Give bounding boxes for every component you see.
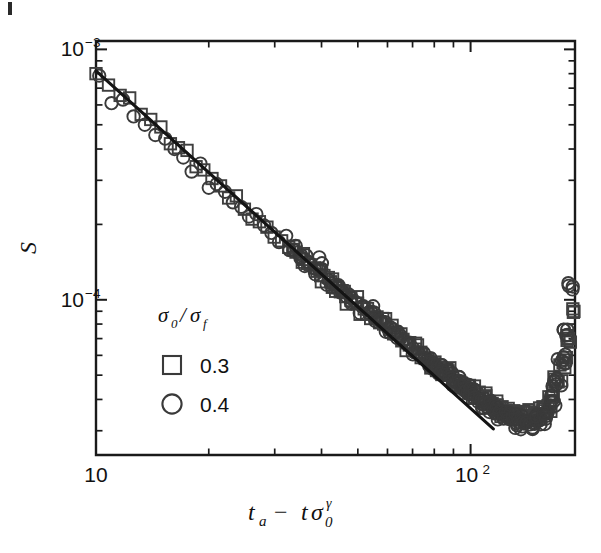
- legend-title-part: σ: [158, 303, 170, 327]
- fit-line: [96, 71, 493, 429]
- y-tick-label-1e-3: 10: [61, 37, 84, 60]
- legend-title-part: σ: [190, 303, 202, 327]
- power-law-fit-line: [96, 71, 493, 429]
- x-tick-label-10: 10: [84, 463, 107, 486]
- y-tick-exponent-1e-3: −3: [85, 35, 100, 50]
- axis-ticks: [96, 41, 575, 455]
- marker-circle: [127, 110, 139, 122]
- x-axis-label-part: −: [274, 499, 288, 525]
- y-axis-label: S: [15, 242, 41, 254]
- legend-marker-circle: [162, 394, 181, 413]
- legend-title-part: 0: [171, 316, 178, 331]
- y-tick-exponent-1e-4: −4: [85, 286, 101, 301]
- legend: σ0/σf0.30.4: [158, 303, 230, 416]
- x-axis-label-part: a: [259, 513, 267, 529]
- figure-panel: 10−310−410102Sta−tσ0γ σ0/σf0.30.4: [0, 0, 601, 553]
- x-axis-label-part: γ: [326, 496, 332, 511]
- legend-title-part: f: [203, 316, 209, 331]
- legend-entry-label: 0.3: [200, 354, 229, 377]
- legend-marker-square: [163, 356, 181, 374]
- plot-border: [96, 41, 575, 455]
- x-axis-label-part: t: [248, 499, 256, 525]
- x-axis-label-part: σ: [311, 499, 324, 525]
- legend-title-part: /: [179, 303, 188, 327]
- x-tick-label-100: 10: [455, 463, 478, 486]
- x-axis-label-part: 0: [325, 514, 333, 530]
- y-tick-label-1e-4: 10: [61, 288, 84, 311]
- legend-entry-label: 0.4: [200, 393, 230, 416]
- x-tick-exponent-100: 2: [483, 462, 491, 477]
- x-axis-label-part: t: [301, 499, 309, 525]
- axis-frame: [96, 41, 575, 455]
- scatter-plot-svg: 10−310−410102Sta−tσ0γ σ0/σf0.30.4: [0, 0, 601, 553]
- x-axis-label: ta−tσ0γ: [248, 496, 333, 530]
